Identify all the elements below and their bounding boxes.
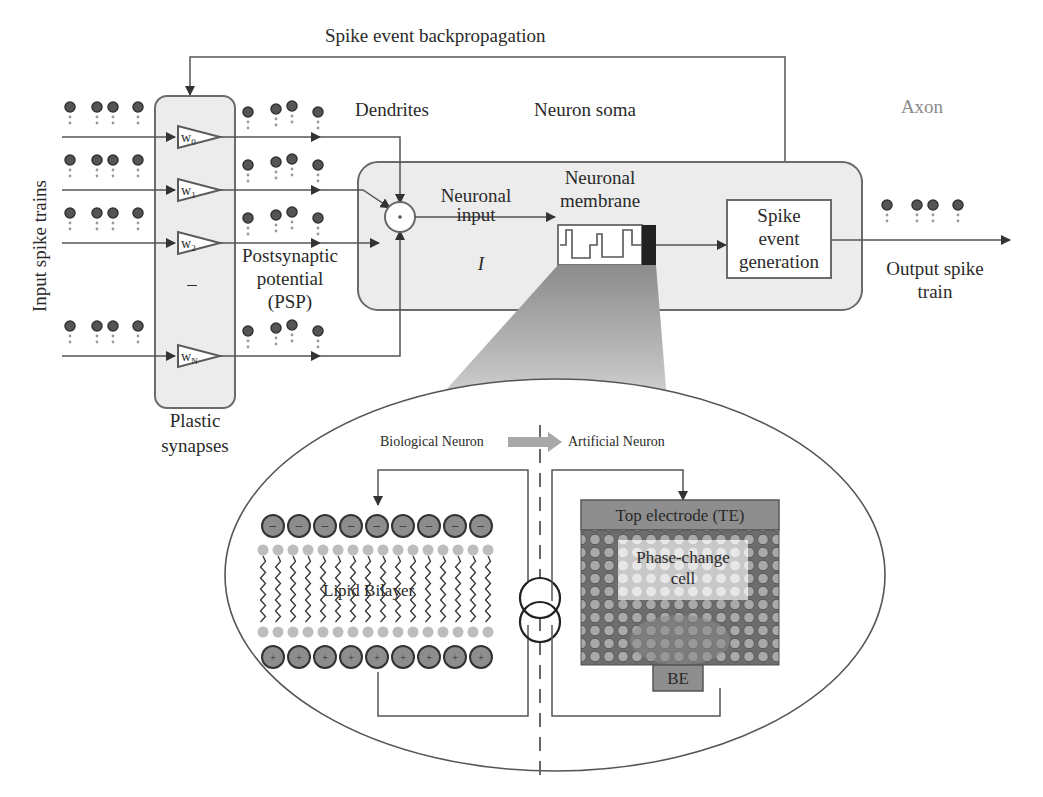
lipid-head-top — [468, 545, 479, 556]
spike-icon — [271, 157, 281, 179]
lipid-head-top — [378, 545, 389, 556]
spike-gen-label-1: Spike — [757, 205, 800, 226]
lipid-head-bottom — [258, 627, 269, 638]
neuron-soma-label: Neuron soma — [534, 99, 636, 120]
negative-ion: − — [470, 515, 492, 537]
svg-text:+: + — [348, 652, 354, 663]
spike-icon — [882, 200, 892, 222]
negative-ion: − — [366, 515, 388, 537]
lipid-head-top — [408, 545, 419, 556]
svg-text:−: − — [321, 519, 329, 534]
lipid-head-top — [273, 545, 284, 556]
spike-icon — [953, 200, 963, 222]
spike-icon — [313, 326, 323, 348]
svg-text:+: + — [426, 652, 432, 663]
negative-ion: − — [392, 515, 414, 537]
spike-icon — [108, 102, 118, 124]
artificial-neuron-label: Artificial Neuron — [568, 434, 665, 449]
lipid-head-bottom — [378, 627, 389, 638]
membrane-label-1: Neuronal — [565, 167, 636, 188]
spike-icon — [313, 213, 323, 235]
output-spike-train — [882, 200, 963, 222]
lipid-head-bottom — [423, 627, 434, 638]
spike-gen-label-2: event — [758, 228, 800, 249]
lipid-head-top — [348, 545, 359, 556]
svg-text:−: − — [399, 519, 407, 534]
pcm-label-1: Phase-change — [636, 548, 729, 567]
dendrites-label: Dendrites — [355, 99, 429, 120]
spike-icon — [133, 208, 143, 230]
lipid-head-top — [258, 545, 269, 556]
lipid-head-top — [438, 545, 449, 556]
spike-icon — [108, 208, 118, 230]
input-spike-trains-label: Input spike trains — [29, 180, 50, 312]
lipid-head-bottom — [438, 627, 449, 638]
backprop-label: Spike event backpropagation — [325, 25, 546, 46]
spike-gen-label-3: generation — [739, 251, 820, 272]
lipid-head-bottom — [333, 627, 344, 638]
negative-ion: − — [340, 515, 362, 537]
svg-text:+: + — [270, 652, 276, 663]
svg-text:−: − — [425, 519, 433, 534]
positive-ion: + — [262, 646, 284, 668]
svg-text:−: − — [295, 519, 303, 534]
spike-icon — [243, 160, 253, 182]
spike-icon — [108, 155, 118, 177]
positive-ion: + — [340, 646, 362, 668]
svg-text:−: − — [269, 519, 277, 534]
positive-ion: + — [288, 646, 310, 668]
output-label-2: train — [918, 281, 953, 302]
lipid-head-bottom — [408, 627, 419, 638]
lipid-head-top — [363, 545, 374, 556]
spike-icon — [928, 200, 938, 222]
lipid-head-bottom — [483, 627, 494, 638]
svg-text:+: + — [322, 652, 328, 663]
synapses-label-1: Plastic — [170, 410, 221, 431]
svg-text:+: + — [296, 652, 302, 663]
summation-node — [385, 202, 415, 232]
spike-icon — [287, 154, 297, 176]
synapses-label-2: synapses — [161, 435, 229, 456]
svg-text:−: − — [451, 519, 459, 534]
neuronal-input-label-1: Neuronal — [441, 185, 512, 206]
spike-icon — [287, 207, 297, 229]
pcm-label-2: cell — [671, 569, 696, 588]
psp-label-2: potential — [257, 268, 323, 289]
synapse-ellipsis: – — [186, 273, 197, 294]
positive-ion: + — [366, 646, 388, 668]
spike-icon — [243, 213, 253, 235]
negative-ion: − — [444, 515, 466, 537]
psp-label-1: Postsynaptic — [242, 245, 338, 266]
lipid-head-top — [318, 545, 329, 556]
svg-text:+: + — [478, 652, 484, 663]
neuronal-membrane-box — [558, 225, 656, 265]
spike-icon — [912, 200, 922, 222]
bio-neuron-label: Biological Neuron — [380, 434, 484, 449]
svg-text:−: − — [477, 519, 485, 534]
spike-icon — [271, 210, 281, 232]
negative-ion: − — [288, 515, 310, 537]
svg-text:+: + — [452, 652, 458, 663]
lipid-head-top — [303, 545, 314, 556]
lipid-bilayer-label: Lipid Bilayer — [323, 581, 414, 600]
lipid-head-bottom — [453, 627, 464, 638]
spike-icon — [92, 155, 102, 177]
positive-ion: + — [470, 646, 492, 668]
spike-icon — [271, 323, 281, 345]
spike-icon — [287, 320, 297, 342]
lipid-head-bottom — [273, 627, 284, 638]
spike-icon — [271, 104, 281, 126]
spike-icon — [65, 102, 75, 124]
lipid-head-top — [393, 545, 404, 556]
lipid-head-top — [423, 545, 434, 556]
positive-ion: + — [392, 646, 414, 668]
neuronal-input-label-2: input — [456, 204, 496, 225]
lipid-head-bottom — [468, 627, 479, 638]
lipid-head-top — [333, 545, 344, 556]
lipid-head-top — [288, 545, 299, 556]
lipid-head-bottom — [288, 627, 299, 638]
spike-icon — [243, 326, 253, 348]
spike-icon — [133, 321, 143, 343]
spike-icon — [243, 107, 253, 129]
svg-text:+: + — [400, 652, 406, 663]
